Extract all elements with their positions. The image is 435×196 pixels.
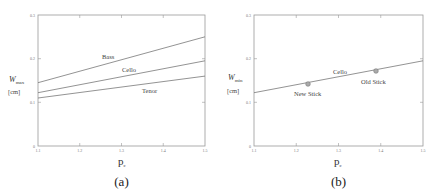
label-tenor: Tenor: [142, 87, 158, 94]
plot-frame-a: [38, 15, 205, 146]
xtick-0-a: 1.1: [36, 148, 41, 153]
xtick-3-a: 1.4: [161, 148, 166, 153]
label-cello-b: Cello: [333, 68, 347, 75]
xtick-1-a: 1.2: [77, 148, 82, 153]
xtick-0-b: 1.1: [252, 148, 257, 153]
ytick-2-b: 0.2: [246, 56, 251, 61]
panel-b: 0 0.1 0.2 0.3 1.1 1.2 1.3 1.4 1.5 Cello …: [227, 13, 426, 190]
line-bass: [38, 37, 205, 83]
label-cello-a: Cello: [122, 66, 136, 73]
ytick-2-a: 0.2: [30, 56, 35, 61]
line-tenor: [38, 76, 205, 98]
plot-frame-b: [254, 15, 423, 146]
label-new-stick: New Stick: [294, 90, 322, 97]
figure: 0 0.1 0.2 0.3 1.1 1.2 1.3 1.4 1.5 Bass C…: [0, 0, 435, 196]
marker-old-stick: [374, 69, 379, 74]
caption-b: (b): [331, 174, 346, 189]
xlabel-b: pc: [334, 155, 343, 168]
ytick-1-b: 0.1: [246, 100, 251, 105]
xtick-1-b: 1.2: [294, 148, 299, 153]
label-old-stick: Old Stick: [361, 78, 386, 85]
ytick-3-a: 0.3: [30, 13, 35, 18]
ytick-3-b: 0.3: [246, 13, 251, 18]
ylabel-a: Wmax: [9, 75, 25, 85]
yunit-a: [cm]: [8, 88, 20, 96]
label-bass: Bass: [102, 53, 115, 60]
yunit-b: [cm]: [227, 87, 239, 95]
x-ticks-a: [80, 15, 164, 146]
xtick-3-b: 1.4: [378, 148, 383, 153]
line-cello-b: [254, 61, 423, 93]
marker-new-stick: [306, 82, 311, 87]
ylabel-b: Wmin: [228, 73, 243, 83]
ytick-1-a: 0.1: [30, 100, 35, 105]
xtick-4-b: 1.5: [421, 148, 426, 153]
xtick-2-b: 1.3: [336, 148, 341, 153]
panel-a: 0 0.1 0.2 0.3 1.1 1.2 1.3 1.4 1.5 Bass C…: [8, 13, 208, 190]
xtick-2-a: 1.3: [119, 148, 124, 153]
xtick-4-a: 1.5: [203, 148, 208, 153]
xlabel-a: pc: [118, 155, 127, 168]
caption-a: (a): [114, 174, 128, 189]
